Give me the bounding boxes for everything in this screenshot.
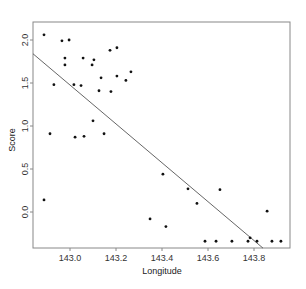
y-tick-label: 1.5	[20, 77, 30, 90]
data-point	[43, 33, 46, 36]
data-point	[80, 84, 83, 87]
y-tick-label: 1.0	[20, 120, 30, 133]
data-point	[83, 135, 86, 138]
data-point	[82, 57, 85, 60]
data-point	[91, 64, 94, 67]
x-tick-label: 143.6	[197, 253, 220, 263]
x-tick-label: 143.8	[243, 253, 266, 263]
data-point	[64, 57, 67, 60]
y-tick-label: 0.0	[20, 206, 30, 219]
y-axis-label: Score	[7, 128, 17, 152]
data-point	[68, 39, 71, 42]
x-tick-label: 143.2	[105, 253, 128, 263]
data-point	[271, 240, 274, 243]
data-point	[247, 240, 250, 243]
data-point	[204, 240, 207, 243]
data-point	[256, 240, 259, 243]
data-point	[124, 79, 127, 82]
x-tick-label: 143.4	[151, 253, 174, 263]
data-point	[53, 83, 56, 86]
scatter-chart: 143.0143.2143.4143.6143.8 0.00.51.01.52.…	[0, 0, 306, 289]
regression-line	[33, 54, 263, 248]
x-axis-label: Longitude	[142, 266, 182, 276]
data-point	[64, 64, 67, 67]
data-point	[61, 39, 64, 42]
data-point	[215, 240, 218, 243]
data-point	[162, 173, 165, 176]
data-point	[98, 89, 101, 92]
data-point	[149, 217, 152, 220]
x-axis: 143.0143.2143.4143.6143.8	[59, 248, 266, 263]
data-point	[93, 58, 96, 61]
data-point	[116, 46, 119, 49]
x-tick-label: 143.0	[59, 253, 82, 263]
data-point	[116, 75, 119, 78]
data-point	[109, 49, 112, 52]
y-axis: 0.00.51.01.52.0	[20, 34, 33, 219]
data-point	[92, 119, 95, 122]
data-point	[280, 240, 283, 243]
y-tick-label: 0.5	[20, 163, 30, 176]
data-point	[100, 76, 103, 79]
data-point	[219, 188, 222, 191]
data-point	[43, 199, 46, 202]
data-point	[165, 225, 168, 228]
data-point	[74, 136, 77, 139]
data-point	[49, 132, 52, 135]
data-point	[130, 70, 133, 73]
y-tick-label: 2.0	[20, 34, 30, 47]
data-point	[187, 187, 190, 190]
data-point	[110, 90, 113, 93]
data-point	[103, 132, 106, 135]
data-point	[73, 83, 76, 86]
data-point	[266, 210, 269, 213]
data-point	[196, 202, 199, 205]
data-points	[43, 33, 283, 242]
data-point	[231, 240, 234, 243]
data-point	[249, 236, 252, 239]
plot-frame	[33, 22, 290, 248]
